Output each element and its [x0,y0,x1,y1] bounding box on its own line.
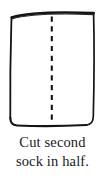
sock-diagram [0,0,105,132]
illustration-page: Cut second sock in half. [0,0,105,184]
caption: Cut second sock in half. [0,133,105,170]
caption-line-2: sock in half. [0,152,105,171]
caption-line-1: Cut second [0,133,105,152]
